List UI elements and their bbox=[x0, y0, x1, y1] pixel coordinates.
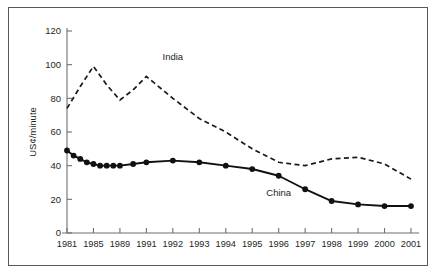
x-axis-tick-labels: 1981198519891991199219931994199519961997… bbox=[57, 239, 421, 249]
series-marker-china bbox=[408, 203, 414, 209]
series-marker-china bbox=[382, 203, 388, 209]
y-axis-tick-label: 100 bbox=[45, 59, 61, 70]
series-marker-china bbox=[170, 158, 176, 164]
series-marker-china bbox=[117, 163, 123, 169]
x-axis-tick-label: 1985 bbox=[83, 239, 103, 249]
series-marker-china bbox=[84, 159, 90, 165]
series-marker-china bbox=[329, 198, 335, 204]
x-axis-tick-label: 2001 bbox=[401, 239, 421, 249]
y-axis-ticks bbox=[67, 31, 72, 233]
series-marker-china bbox=[97, 163, 103, 169]
series-marker-china bbox=[302, 186, 308, 192]
x-axis-tick-label: 1996 bbox=[268, 239, 288, 249]
x-axis-ticks bbox=[67, 228, 411, 233]
y-axis-tick-label: 20 bbox=[50, 194, 61, 205]
series-label-india: India bbox=[163, 51, 184, 62]
series-label-china: China bbox=[266, 187, 292, 198]
series-marker-china bbox=[143, 159, 149, 165]
x-axis-tick-label: 1989 bbox=[110, 239, 130, 249]
line-chart: 020406080100120 US¢/minute 1981198519891… bbox=[0, 0, 436, 274]
x-axis-tick-label: 1981 bbox=[57, 239, 77, 249]
x-axis-tick-label: 1995 bbox=[242, 239, 262, 249]
x-axis-tick-label: 1998 bbox=[321, 239, 341, 249]
y-axis-tick-label: 80 bbox=[50, 93, 61, 104]
series-marker-china bbox=[77, 156, 83, 162]
y-axis-title: US¢/minute bbox=[27, 107, 38, 157]
x-axis-tick-label: 1993 bbox=[189, 239, 209, 249]
series-marker-china bbox=[276, 173, 282, 179]
x-axis-tick-label: 2000 bbox=[374, 239, 394, 249]
x-axis-tick-label: 1992 bbox=[163, 239, 183, 249]
series-marker-china bbox=[91, 161, 97, 167]
y-axis-tick-label: 60 bbox=[50, 126, 61, 137]
y-axis-tick-label: 40 bbox=[50, 160, 61, 171]
series-marker-china bbox=[104, 163, 110, 169]
series-marker-china bbox=[110, 163, 116, 169]
series-marker-china bbox=[64, 148, 70, 154]
series-marker-china bbox=[355, 201, 361, 207]
x-axis-tick-label: 1994 bbox=[216, 239, 236, 249]
y-axis-tick-label: 120 bbox=[45, 25, 61, 36]
x-axis-tick-label: 1997 bbox=[295, 239, 315, 249]
series-line-india bbox=[67, 66, 411, 179]
x-axis-tick-label: 1991 bbox=[136, 239, 156, 249]
series-marker-china bbox=[249, 166, 255, 172]
y-axis-tick-label: 0 bbox=[56, 227, 61, 238]
plot-area: 020406080100120 US¢/minute 1981198519891… bbox=[0, 0, 436, 274]
x-axis: 1981198519891991199219931994199519961997… bbox=[57, 228, 421, 249]
series-line-china bbox=[67, 151, 411, 207]
data-series-group bbox=[64, 66, 414, 209]
x-axis-tick-label: 1999 bbox=[348, 239, 368, 249]
series-marker-china bbox=[223, 163, 229, 169]
series-marker-china bbox=[130, 161, 136, 167]
series-marker-china bbox=[196, 159, 202, 165]
y-axis-tick-labels: 020406080100120 bbox=[45, 25, 61, 238]
series-marker-china bbox=[71, 153, 77, 159]
y-axis: 020406080100120 US¢/minute bbox=[27, 25, 72, 238]
series-annotations: IndiaChina bbox=[163, 51, 292, 198]
chart-figure: 020406080100120 US¢/minute 1981198519891… bbox=[0, 0, 436, 274]
